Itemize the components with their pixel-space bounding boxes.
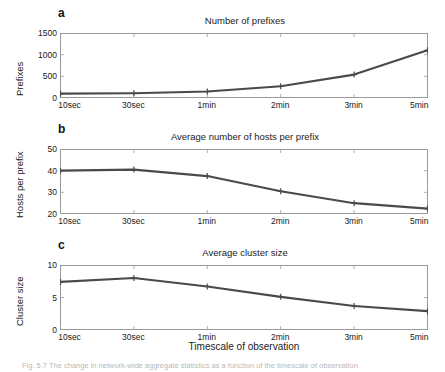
panel-a-marker-1 [131, 90, 137, 96]
figure-caption: Fig. 5.7 The change in network-wide aggr… [22, 361, 432, 372]
panel-a-xtick-3: 2min [271, 100, 289, 110]
panel-a-xtick-0: 10sec [58, 100, 81, 110]
panel-b-series [60, 149, 428, 214]
panel-c-plot [60, 265, 428, 330]
panel-c-ytick-1: 5 [52, 293, 57, 303]
panel-a-marker-3 [278, 83, 284, 89]
panel-b-plot [60, 149, 428, 214]
panel-a-xtick-5: 5min [410, 100, 428, 110]
panel-b-line [61, 170, 428, 209]
panel-a-ytick-0: 0 [52, 93, 57, 103]
panel-b: b Average number of hosts per prefix Hos… [0, 120, 445, 236]
panel-b-ytick-2: 40 [48, 166, 57, 176]
panel-a-marker-5 [425, 47, 429, 53]
panel-a-marker-0 [60, 91, 64, 97]
panel-c-marker-2 [204, 283, 210, 289]
panel-a-marker-2 [204, 89, 210, 95]
panel-c-marker-1 [131, 275, 137, 281]
panel-a-line [61, 50, 428, 93]
panel-a-xtick-4: 3min [344, 100, 362, 110]
panel-c-marker-4 [351, 303, 357, 309]
panel-a-plot [60, 33, 428, 98]
panel-a-ytick-labels: 050010001500 [24, 33, 57, 98]
panel-b-marker-0 [60, 168, 64, 174]
panel-c-line [61, 278, 428, 311]
panel-b-marker-5 [425, 206, 429, 212]
panel-b-xtick-labels: 10sec30sec1min2min3min5min [60, 216, 428, 230]
panel-c-marker-3 [278, 294, 284, 300]
panel-a-title: Number of prefixes [60, 15, 430, 26]
panel-c-ytick-2: 10 [48, 260, 57, 270]
panel-c-marker-5 [425, 308, 429, 314]
panel-b-title: Average number of hosts per prefix [60, 131, 430, 142]
panel-a-marker-4 [351, 72, 357, 78]
xaxis-title: Timescale of observation [60, 341, 428, 352]
panel-c-ytick-0: 0 [52, 325, 57, 335]
panel-a-series [60, 33, 428, 98]
panel-c-ytick-labels: 0510 [24, 265, 57, 330]
panel-b-xtick-2: 1min [198, 216, 216, 226]
panel-b-marker-4 [351, 200, 357, 206]
panel-a: a Number of prefixes Prefixes 0500100015… [0, 4, 445, 120]
panel-b-xtick-4: 3min [344, 216, 362, 226]
panel-b-marker-1 [131, 167, 137, 173]
panel-c-title: Average cluster size [60, 247, 430, 258]
panel-b-xtick-5: 5min [410, 216, 428, 226]
panel-b-xtick-1: 30sec [122, 216, 145, 226]
panel-c: c Average cluster size Cluster size 0510… [0, 236, 445, 352]
panel-a-xtick-2: 1min [198, 100, 216, 110]
panel-b-ytick-labels: 20304050 [24, 149, 57, 214]
panel-a-ytick-1: 500 [43, 71, 57, 81]
panel-b-xtick-0: 10sec [58, 216, 81, 226]
panel-a-xtick-1: 30sec [122, 100, 145, 110]
panel-c-series [60, 265, 428, 330]
panel-a-xtick-labels: 10sec30sec1min2min3min5min [60, 100, 428, 114]
figure-5-7: a Number of prefixes Prefixes 0500100015… [0, 0, 445, 372]
panel-a-ytick-3: 1500 [38, 28, 57, 38]
panel-c-marker-0 [60, 279, 64, 285]
panel-b-marker-2 [204, 173, 210, 179]
panel-b-ytick-3: 50 [48, 144, 57, 154]
panel-b-ytick-1: 30 [48, 187, 57, 197]
panel-a-ytick-2: 1000 [38, 50, 57, 60]
panel-b-marker-3 [278, 188, 284, 194]
panel-b-xtick-3: 2min [271, 216, 289, 226]
panel-b-ytick-0: 20 [48, 209, 57, 219]
